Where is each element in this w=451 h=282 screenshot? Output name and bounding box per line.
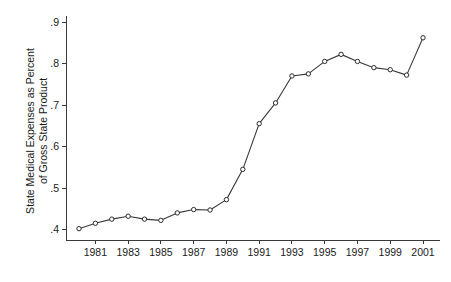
y-axis-tick-label: .7: [50, 99, 59, 111]
x-axis-tick-label: 1993: [280, 246, 304, 258]
data-point: [372, 65, 376, 69]
data-point: [290, 74, 294, 78]
x-axis-tick-label: 1991: [248, 246, 272, 258]
data-point: [191, 207, 195, 211]
x-axis-tick-label: 1987: [182, 246, 206, 258]
data-point: [273, 101, 277, 105]
data-point: [93, 221, 97, 225]
x-axis-tick-label: 1985: [149, 246, 173, 258]
y-axis-tick-label: .4: [50, 223, 59, 235]
y-axis: .4.5.6.7.8.9: [50, 16, 66, 240]
x-axis-tick-label: 1999: [379, 246, 403, 258]
y-axis-title: State Medical Expenses as Percentof Gros…: [24, 48, 49, 214]
y-axis-title-line-1: State Medical Expenses as Percent: [24, 48, 36, 214]
chart-container: State Medical Expenses as Percentof Gros…: [0, 0, 451, 282]
data-point: [257, 121, 261, 125]
data-point: [175, 211, 179, 215]
data-point: [355, 59, 359, 63]
data-point: [323, 59, 327, 63]
y-axis-tick-label: .8: [50, 57, 59, 69]
y-axis-tick-label: .6: [50, 140, 59, 152]
data-series: [77, 36, 425, 231]
x-axis: 1981198319851987198919911993199519971999…: [66, 240, 440, 258]
x-axis-tick-label: 1995: [313, 246, 337, 258]
y-axis-title-line-2: of Gross State Product: [37, 78, 49, 184]
line-chart: State Medical Expenses as Percentof Gros…: [0, 0, 451, 282]
y-axis-tick-label: .5: [50, 182, 59, 194]
data-point: [126, 214, 130, 218]
data-point: [208, 208, 212, 212]
x-axis-tick-label: 1983: [116, 246, 140, 258]
data-point: [241, 167, 245, 171]
series-line: [79, 38, 423, 229]
data-point: [404, 73, 408, 77]
data-point: [77, 226, 81, 230]
x-axis-tick-label: 2001: [411, 246, 435, 258]
data-point: [339, 52, 343, 56]
x-axis-tick-label: 1997: [346, 246, 370, 258]
data-point: [142, 217, 146, 221]
data-point: [224, 197, 228, 201]
x-axis-tick-label: 1989: [215, 246, 239, 258]
data-point: [421, 36, 425, 40]
y-axis-tick-label: .9: [50, 16, 59, 28]
data-point: [388, 68, 392, 72]
data-point: [159, 218, 163, 222]
data-point: [110, 217, 114, 221]
data-point: [306, 72, 310, 76]
x-axis-tick-label: 1981: [84, 246, 108, 258]
